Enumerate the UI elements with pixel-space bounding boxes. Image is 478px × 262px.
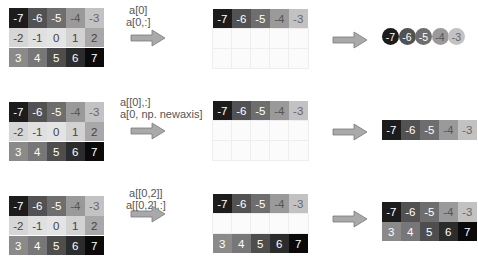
empty-cell	[289, 121, 308, 141]
empty-cell	[213, 29, 232, 49]
array-cell: 1	[66, 28, 85, 48]
right-arrow-icon	[130, 205, 166, 223]
array-cell: 7	[85, 48, 104, 68]
array-cell: -4	[66, 196, 85, 216]
indexing-expression: a[0]	[126, 4, 150, 16]
empty-cell	[251, 214, 270, 234]
empty-cell	[289, 49, 308, 69]
array-cell: -5	[47, 196, 66, 216]
array-cell: -6	[28, 8, 47, 28]
empty-cell	[289, 29, 308, 49]
array-cell: 1	[66, 216, 85, 236]
array-cell: 7	[458, 222, 477, 242]
array-cell: -6	[28, 102, 47, 122]
array-cell: -3	[85, 102, 104, 122]
source-array-grid: -7-6-5-4-3-2-101234567	[9, 8, 104, 67]
array-cell: -5	[420, 120, 439, 140]
array-cell: -6	[401, 202, 420, 222]
array-cell: 0	[47, 122, 66, 142]
array-cell: 4	[28, 236, 47, 256]
array-cell: 3	[9, 142, 28, 162]
array-cell: -4	[270, 101, 289, 121]
array-cell: -6	[232, 9, 251, 29]
array-cell: -5	[47, 8, 66, 28]
array-cell: 4	[401, 222, 420, 242]
indexing-expression: a[[0,2]]	[126, 187, 166, 199]
indexing-expression: a[0,:]	[126, 16, 150, 28]
indexing-expression: a[0, np. newaxis]	[120, 108, 203, 120]
empty-cell	[289, 214, 308, 234]
selection-highlight-grid: -7-6-5-4-334567	[213, 194, 308, 253]
empty-cell	[270, 121, 289, 141]
array-cell: 7	[289, 234, 308, 254]
array-cell: -1	[28, 122, 47, 142]
array-cell: -2	[9, 28, 28, 48]
indexing-expression-label: a[0]a[0,:]	[126, 4, 150, 28]
array-cell: 4	[28, 142, 47, 162]
array-cell: -3	[289, 194, 308, 214]
empty-cell	[251, 141, 270, 161]
array-cell: 4	[232, 234, 251, 254]
array-cell: 4	[28, 48, 47, 68]
array-cell: -6	[401, 120, 420, 140]
array-cell: 5	[47, 48, 66, 68]
array-cell: 6	[439, 222, 458, 242]
array-cell: 5	[420, 222, 439, 242]
array-cell: -7	[9, 102, 28, 122]
empty-cell	[232, 141, 251, 161]
empty-cell	[289, 141, 308, 161]
array-cell: 6	[270, 234, 289, 254]
array-cell: -6	[232, 101, 251, 121]
empty-cell	[232, 214, 251, 234]
array-cell: -3	[85, 196, 104, 216]
empty-cell	[232, 29, 251, 49]
array-cell: 7	[85, 236, 104, 256]
array-cell: -5	[47, 102, 66, 122]
array-cell: 1	[66, 122, 85, 142]
result-element-circle: -6	[399, 28, 416, 45]
empty-cell	[213, 121, 232, 141]
array-cell: 2	[85, 122, 104, 142]
right-arrow-icon	[332, 123, 368, 141]
empty-cell	[213, 49, 232, 69]
array-cell: -4	[439, 202, 458, 222]
array-cell: -7	[213, 194, 232, 214]
result-2d-array: -7-6-5-4-3	[382, 120, 477, 140]
array-cell: 7	[85, 142, 104, 162]
array-cell: -4	[439, 120, 458, 140]
array-cell: -6	[28, 196, 47, 216]
result-element-circle: -5	[415, 28, 432, 45]
array-cell: 6	[66, 48, 85, 68]
array-cell: 0	[47, 28, 66, 48]
empty-cell	[251, 29, 270, 49]
result-element-circle: -3	[448, 28, 465, 45]
array-cell: -1	[28, 216, 47, 236]
array-cell: 0	[47, 216, 66, 236]
indexing-expression-label: a[[0],:]a[0, np. newaxis]	[120, 96, 203, 120]
array-cell: -6	[232, 194, 251, 214]
array-cell: -2	[9, 122, 28, 142]
result-1d-array: -7-6-5-4-3	[382, 28, 465, 45]
selection-highlight-grid: -7-6-5-4-3	[213, 9, 308, 68]
empty-cell	[270, 141, 289, 161]
selection-highlight-grid: -7-6-5-4-3	[213, 101, 308, 160]
indexing-expression: a[[0],:]	[120, 96, 203, 108]
empty-cell	[270, 49, 289, 69]
right-arrow-icon	[130, 122, 166, 140]
array-cell: -7	[382, 202, 401, 222]
array-cell: -5	[420, 202, 439, 222]
array-cell: 3	[382, 222, 401, 242]
array-cell: -5	[251, 101, 270, 121]
array-cell: -3	[85, 8, 104, 28]
array-cell: -7	[213, 9, 232, 29]
empty-cell	[213, 141, 232, 161]
array-cell: 3	[9, 236, 28, 256]
array-cell: 5	[47, 142, 66, 162]
array-cell: -5	[251, 9, 270, 29]
empty-cell	[251, 49, 270, 69]
right-arrow-icon	[130, 29, 166, 47]
source-array-grid: -7-6-5-4-3-2-101234567	[9, 196, 104, 255]
array-cell: -7	[9, 196, 28, 216]
array-cell: 2	[85, 216, 104, 236]
array-cell: -4	[270, 9, 289, 29]
